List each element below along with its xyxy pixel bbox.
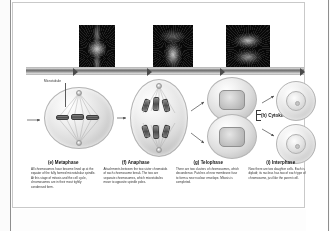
microtubule-rays [153,25,193,73]
chromosome-cluster [219,90,245,110]
caption-interphase: (i) Interphase Now there are two daughte… [249,160,314,204]
spindle-pole [76,90,82,96]
interphase-cell-bottom [276,124,316,164]
microtubule-leader-line [65,83,66,107]
nucleolus [295,101,300,106]
anaphase-cell [130,79,188,157]
nucleus [286,134,306,154]
telophase-cell [207,77,257,159]
daughter-lobe-bottom [207,114,257,159]
microtubule-rays [79,25,115,73]
microtubule-label: Microtubule [44,79,61,83]
caption-body: There are two clusters of chromosomes, w… [176,167,241,186]
telophase-micrograph [226,25,270,71]
metaphase-plate [56,114,102,122]
chromosome [56,115,69,120]
nucleus [286,91,306,111]
spindle-pole [156,83,162,89]
spindle-pole [156,147,162,153]
figure-page: Microtubule [0,0,330,231]
caption-telophase: (g) Telophase There are two clusters of … [176,160,241,204]
mitosis-timeline-bar [26,67,304,75]
timeline-arrow-icon [300,68,305,76]
metaphase-micrograph [79,25,115,73]
caption-metaphase: (e) Metaphase All chromosomes have becom… [31,160,96,204]
chromosome [86,115,99,120]
caption-anaphase: (f) Anaphase Attachments between the two… [104,160,169,204]
caption-body: All chromosomes have become lined up at … [31,167,96,190]
chromosome [153,125,160,139]
caption-row: (e) Metaphase All chromosomes have becom… [31,160,313,204]
spindle-pole [76,140,82,146]
caption-heading: (i) Interphase [249,160,314,165]
spindle-fibers [130,79,188,157]
timeline-arrow-icon [73,68,78,76]
anaphase-micrograph [153,25,193,73]
caption-heading: (e) Metaphase [31,160,96,165]
chromosome [71,114,84,120]
caption-heading: (f) Anaphase [104,160,169,165]
timeline-arrow-icon [220,68,225,76]
metaphase-cell [44,87,114,149]
caption-body: Attachments between the two sister chrom… [104,167,169,186]
interphase-cell-top [276,81,316,121]
timeline-arrow-icon [147,68,152,76]
figure-content-panel: Microtubule [12,2,305,208]
chromosome [153,97,160,111]
caption-heading: (g) Telophase [176,160,241,165]
microtubule-rays [226,25,270,71]
nucleolus [295,144,300,149]
chromosome-cluster [219,127,245,147]
page-bottom-margin [11,209,306,231]
caption-body: Now there are two daughter cells. Each i… [249,167,314,181]
